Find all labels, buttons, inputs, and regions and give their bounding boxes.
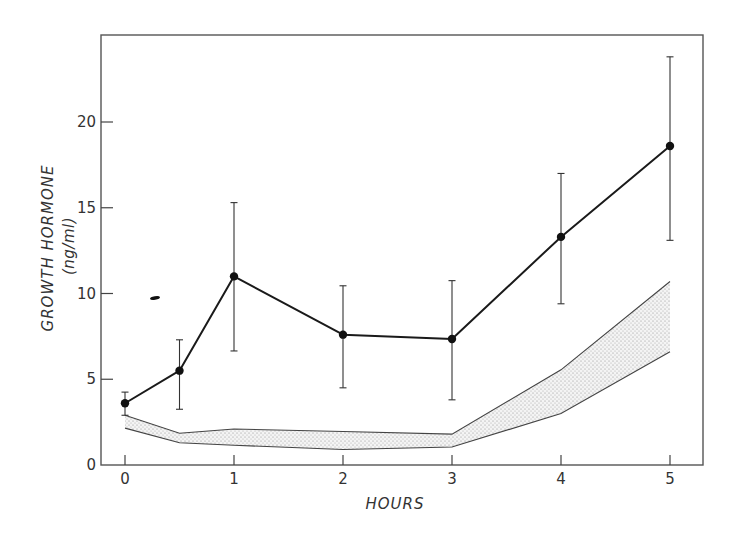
y-tick-label: 20	[77, 113, 96, 131]
data-point-marker	[448, 335, 456, 343]
chart: 012345 05101520 HOURS GROWTH HORMONE (ng…	[0, 0, 741, 545]
x-tick-label: 5	[665, 470, 675, 488]
y-tick-label: 0	[86, 456, 96, 474]
band-area	[125, 281, 670, 449]
data-point-marker	[339, 330, 347, 338]
x-tick-label: 2	[338, 470, 348, 488]
y-tick-label: 5	[86, 370, 96, 388]
x-tick-label: 4	[556, 470, 566, 488]
y-axis-title: GROWTH HORMONE	[39, 165, 57, 332]
x-tick-label: 0	[120, 470, 130, 488]
y-tick-label: 15	[77, 199, 96, 217]
x-axis-title: HOURS	[365, 495, 424, 513]
data-point-marker	[175, 366, 183, 374]
x-tick-label: 3	[447, 470, 457, 488]
plot-frame	[101, 35, 703, 465]
data-point-marker	[121, 399, 129, 407]
y-tick-label: 10	[77, 285, 96, 303]
x-axis-ticks: 012345	[120, 455, 675, 488]
data-point-marker	[230, 272, 238, 280]
scan-artifact-mark	[150, 296, 160, 301]
x-tick-label: 1	[229, 470, 239, 488]
data-point-marker	[557, 233, 565, 241]
data-point-marker	[666, 142, 674, 150]
growth-hormone-line-chart: 012345 05101520 HOURS GROWTH HORMONE (ng…	[0, 0, 741, 545]
reference-band	[125, 281, 670, 449]
y-axis-ticks: 05101520	[77, 113, 113, 474]
y-axis-units: (ng/ml)	[60, 217, 78, 275]
